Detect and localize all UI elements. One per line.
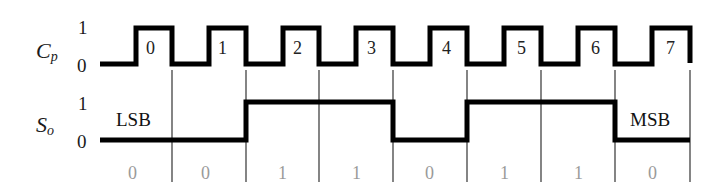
clock-pulse-label: 6 xyxy=(591,38,600,59)
serial-bit-value: 0 xyxy=(201,163,210,184)
serial-output-signal-label: So xyxy=(36,114,54,138)
serial-level-high: 1 xyxy=(78,94,88,113)
timing-diagram: Cp So 1 0 1 0 0 1 2 3 4 5 6 7 LSB MSB 0 … xyxy=(0,0,727,194)
serial-bit-value: 1 xyxy=(574,163,583,184)
serial-bit-value: 0 xyxy=(648,163,657,184)
clock-pulse-label: 2 xyxy=(293,38,302,59)
serial-bit-value: 1 xyxy=(352,163,361,184)
clock-level-low: 0 xyxy=(77,56,87,75)
lsb-label: LSB xyxy=(116,109,151,131)
clock-pulse-label: 7 xyxy=(666,38,675,59)
clock-pulse-label: 4 xyxy=(442,38,451,59)
serial-level-low: 0 xyxy=(77,132,87,151)
serial-bit-value: 1 xyxy=(500,163,509,184)
clock-pulse-label: 3 xyxy=(367,38,376,59)
clock-waveform xyxy=(100,28,690,64)
serial-output-waveform xyxy=(100,102,690,140)
serial-bit-value: 1 xyxy=(278,163,287,184)
clock-signal-label: Cp xyxy=(36,40,58,64)
serial-bit-value: 0 xyxy=(128,163,137,184)
clock-pulse-label: 1 xyxy=(218,38,227,59)
serial-bit-value: 0 xyxy=(425,163,434,184)
clock-level-high: 1 xyxy=(78,18,88,37)
waveform-canvas xyxy=(0,0,727,194)
clock-pulse-label: 0 xyxy=(146,38,155,59)
msb-label: MSB xyxy=(630,109,670,131)
clock-pulse-label: 5 xyxy=(517,38,526,59)
